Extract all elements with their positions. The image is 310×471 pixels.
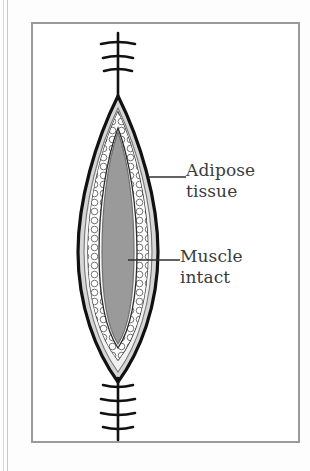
label-muscle-line2: intact bbox=[180, 267, 243, 288]
label-muscle-intact: Muscle intact bbox=[180, 246, 243, 288]
label-muscle-line1: Muscle bbox=[180, 246, 243, 267]
label-adipose-line1: Adipose bbox=[186, 160, 255, 181]
figure-page: Adipose tissue Muscle intact bbox=[0, 0, 310, 471]
wound-cross-section-illustration bbox=[0, 0, 310, 471]
label-adipose-tissue: Adipose tissue bbox=[186, 160, 255, 202]
suture-top bbox=[101, 33, 135, 100]
suture-bottom bbox=[101, 378, 135, 440]
label-adipose-line2: tissue bbox=[186, 181, 255, 202]
